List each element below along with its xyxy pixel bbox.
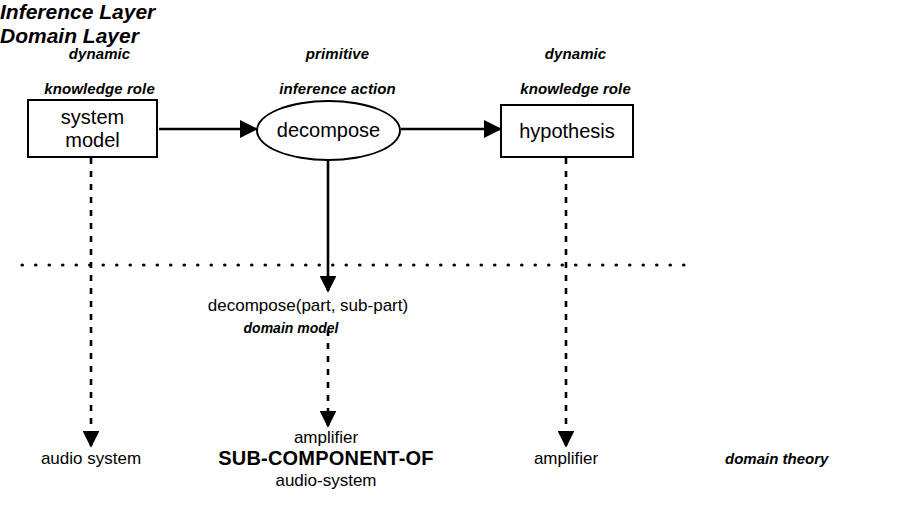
node-decompose-label: decompose	[277, 119, 380, 141]
instance-center-line3: audio-system	[202, 471, 450, 491]
header-right-line1: dynamic	[545, 45, 607, 62]
node-system-model-line1: system	[61, 106, 124, 128]
header-center-line2: inference action	[279, 80, 396, 97]
header-label-right: dynamic knowledge role	[483, 27, 651, 115]
instance-right-label: amplifier	[496, 449, 636, 469]
node-system-model[interactable]: system model	[27, 99, 158, 158]
node-hypothesis-label: hypothesis	[519, 120, 615, 142]
header-center-line1: primitive	[306, 45, 369, 62]
header-left-line1: dynamic	[69, 45, 131, 62]
instance-center-relation: SUB-COMPONENT-OF	[190, 447, 462, 471]
inference-layer-label: Inference Layer	[0, 0, 901, 24]
node-decompose[interactable]: decompose	[256, 100, 401, 161]
node-system-model-line2: model	[65, 129, 119, 151]
instance-center-line1: amplifier	[202, 428, 450, 448]
domain-model-caption: domain model	[178, 320, 404, 337]
header-right-line2: knowledge role	[520, 80, 631, 97]
domain-theory-caption: domain theory	[725, 450, 828, 467]
instance-left-label: audio system	[11, 449, 171, 469]
domain-model-relation: decompose(part, sub-part)	[178, 296, 438, 316]
node-hypothesis[interactable]: hypothesis	[500, 104, 634, 158]
header-left-line2: knowledge role	[44, 80, 155, 97]
diagram-canvas: dynamic knowledge role primitive inferen…	[0, 0, 901, 511]
node-system-model-label: system model	[61, 106, 124, 151]
